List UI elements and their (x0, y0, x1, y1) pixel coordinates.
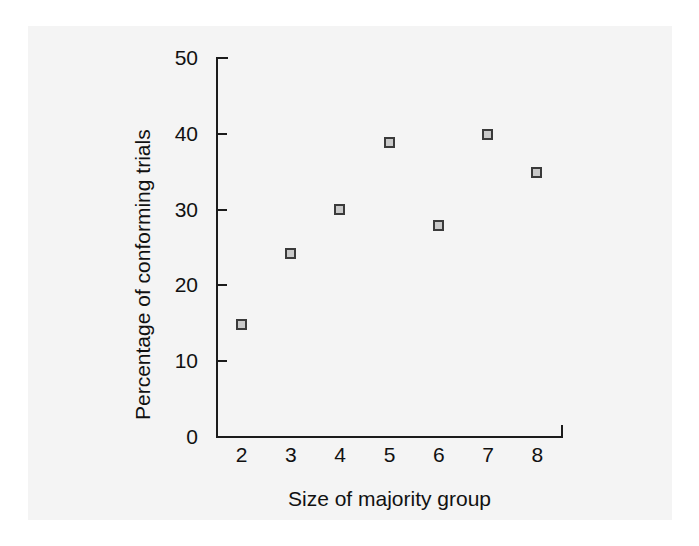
y-tick-label: 30 (152, 199, 198, 220)
data-point-marker (236, 319, 247, 330)
y-tick-label: 20 (152, 274, 198, 295)
x-tick-label: 7 (468, 444, 508, 465)
y-axis-title: Percentage of conforming trials (131, 129, 155, 420)
x-tick-label: 8 (517, 444, 557, 465)
data-point-marker (433, 220, 444, 231)
x-tick-label: 5 (370, 444, 410, 465)
y-tick-label: 50 (152, 47, 198, 68)
x-axis-line (216, 436, 563, 438)
y-axis-tick (216, 133, 227, 135)
y-tick-label: 40 (152, 123, 198, 144)
y-axis-tick (216, 284, 227, 286)
y-tick-label: 0 (152, 426, 198, 447)
x-tick-label: 6 (419, 444, 459, 465)
scatter-plot: 010203040502345678 Size of majority grou… (0, 0, 699, 546)
data-point-marker (531, 167, 542, 178)
y-axis-line (216, 57, 218, 438)
data-point-marker (334, 204, 345, 215)
data-point-marker (285, 248, 296, 259)
x-tick-label: 4 (320, 444, 360, 465)
data-point-marker (384, 137, 395, 148)
y-axis-tick (216, 57, 227, 59)
y-axis-tick (216, 209, 227, 211)
y-axis-tick (216, 360, 227, 362)
figure-container: 010203040502345678 Size of majority grou… (0, 0, 699, 546)
x-tick-label: 3 (271, 444, 311, 465)
y-axis-tick (216, 436, 227, 438)
y-tick-label: 10 (152, 350, 198, 371)
x-axis-title: Size of majority group (216, 487, 563, 511)
x-axis-end-cap (561, 425, 563, 438)
x-tick-label: 2 (222, 444, 262, 465)
data-point-marker (482, 129, 493, 140)
